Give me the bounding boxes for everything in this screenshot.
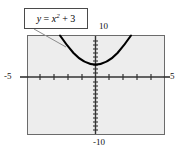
equation-callout-box: y = x2 + 3 [24,8,88,29]
equation-callout-text: y = x2 + 3 [37,13,76,24]
equation-equals: = [41,13,52,24]
x-max-label: 5 [170,72,175,81]
y-min-label: -10 [93,138,105,147]
x-min-label: -5 [4,72,12,81]
graph-figure: y = x2 + 3 -5 5 10 -10 [0,0,182,156]
y-max-label: 10 [99,22,108,31]
equation-tail: + 3 [60,13,76,24]
